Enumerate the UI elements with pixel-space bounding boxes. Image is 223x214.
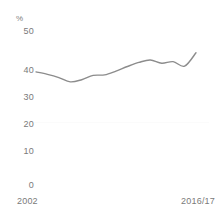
line-chart: % 50 40 30 20 10 0 2002 2016/17: [0, 0, 223, 214]
plot-area: [0, 0, 223, 214]
data-line-series-0: [36, 53, 196, 82]
